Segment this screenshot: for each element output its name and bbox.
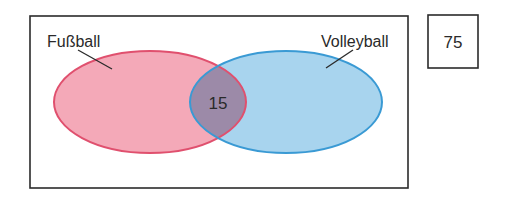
outside-count-value: 75 xyxy=(444,33,463,52)
intersection-value: 15 xyxy=(209,94,228,113)
venn-diagram: 75 15 Fußball Volleyball xyxy=(0,0,505,200)
set-fussball-label: Fußball xyxy=(47,33,100,50)
set-volleyball-label: Volleyball xyxy=(321,33,389,50)
